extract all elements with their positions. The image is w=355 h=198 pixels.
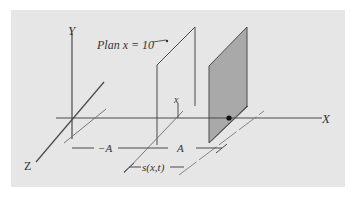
x-axis-label: X <box>321 111 331 126</box>
point-x-label: x <box>173 94 179 105</box>
pos-a-label: A <box>176 142 184 154</box>
neg-a-label: −A <box>98 142 112 154</box>
z-axis-label: Z <box>24 159 31 173</box>
plane-label: Plan x = 10 <box>96 38 154 52</box>
plane-label-arrowhead <box>166 40 168 42</box>
intersection-dot <box>226 115 231 120</box>
s-label: s(x,t) <box>142 161 165 174</box>
diagram: Y X Z Plan x = 10 x −A A s(x,t) <box>0 0 355 198</box>
